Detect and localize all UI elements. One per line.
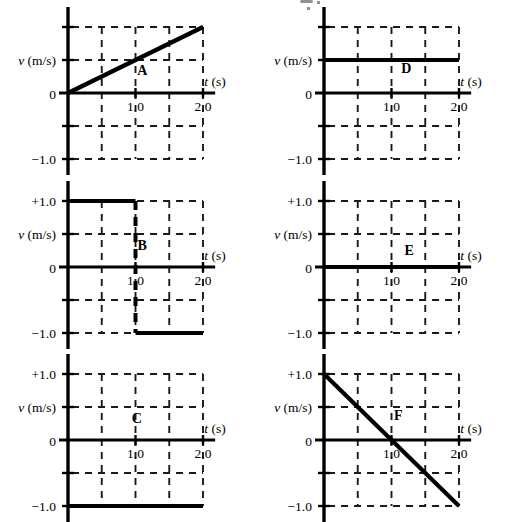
velocity-time-graph-figure: v (m/s)0−1.01.02.0t (s)Av (m/s)0−1.01.02… (0, 0, 513, 522)
y-axis-label: v (m/s) (18, 53, 56, 68)
y-axis-labels: v (m/s)0−1.0 (18, 53, 56, 167)
y-tick-bottom: −1.0 (288, 499, 313, 514)
y-axis-label: v (m/s) (274, 53, 312, 68)
x-tick-label: 2.0 (195, 446, 212, 461)
x-tick-label: 1.0 (127, 446, 144, 461)
x-axis-label: t (s) (204, 248, 225, 263)
y-tick-zero: 0 (49, 87, 56, 102)
y-axis-label: v (m/s) (18, 400, 56, 415)
y-tick-bottom: −1.0 (32, 152, 57, 167)
y-tick-zero: 0 (49, 434, 56, 449)
y-tick-bottom: −1.0 (288, 326, 313, 341)
x-tick-label: 1.0 (383, 273, 400, 288)
x-tick-label: 2.0 (195, 99, 212, 114)
graph-panel-f: +1.0v (m/s)0−1.01.02.0t (s)F (256, 350, 513, 522)
y-axis-label: v (m/s) (18, 227, 56, 242)
panel-letter: D (401, 61, 411, 76)
y-axis-label: v (m/s) (274, 227, 312, 242)
x-axis-label: t (s) (460, 74, 481, 89)
y-tick-zero: 0 (305, 434, 312, 449)
axes (59, 354, 215, 522)
panel-letter: C (132, 411, 142, 426)
graph-panel-b: +1.0v (m/s)0−1.01.02.0t (s)B (0, 175, 256, 350)
y-tick-zero: 0 (305, 261, 312, 276)
panel-letter: E (404, 243, 413, 258)
y-tick-top: +1.0 (288, 367, 313, 382)
y-tick-top: +1.0 (32, 367, 57, 382)
y-tick-zero: 0 (305, 87, 312, 102)
x-axis-label: t (s) (460, 421, 481, 436)
y-axis-labels: +1.0v (m/s)0−1.0 (18, 367, 56, 514)
x-axis-label: t (s) (204, 74, 225, 89)
axes (315, 7, 471, 175)
graph-panel-e: +1.0v (m/s)0−1.01.02.0t (s)E (256, 175, 513, 350)
y-tick-top: +1.0 (32, 194, 57, 209)
graph-panel-a: v (m/s)0−1.01.02.0t (s)A (0, 0, 256, 175)
y-axis-labels: v (m/s)0−1.0 (274, 53, 312, 167)
x-tick-label: 1.0 (383, 99, 400, 114)
panel-letter: F (394, 408, 403, 423)
x-tick-label: 2.0 (195, 273, 212, 288)
graph-panel-d: v (m/s)0−1.01.02.0t (s)D (256, 0, 513, 175)
x-tick-label: 1.0 (127, 99, 144, 114)
y-tick-zero: 0 (49, 261, 56, 276)
x-tick-label: 2.0 (451, 273, 468, 288)
y-tick-bottom: −1.0 (288, 152, 313, 167)
panel-letter: B (138, 238, 147, 253)
y-axis-label: v (m/s) (274, 400, 312, 415)
y-tick-top: +1.0 (288, 194, 313, 209)
x-tick-label: 2.0 (451, 446, 468, 461)
y-tick-bottom: −1.0 (32, 326, 57, 341)
x-axis-label: t (s) (460, 248, 481, 263)
y-axis-labels: +1.0v (m/s)0−1.0 (274, 194, 312, 341)
panel-letter: A (137, 63, 148, 78)
y-axis-labels: +1.0v (m/s)0−1.0 (18, 194, 56, 341)
graph-panel-c: +1.0v (m/s)0−1.01.02.0t (s)C (0, 350, 256, 522)
y-tick-bottom: −1.0 (32, 499, 57, 514)
x-tick-label: 2.0 (451, 99, 468, 114)
x-axis-label: t (s) (204, 421, 225, 436)
y-axis-labels: +1.0v (m/s)0−1.0 (274, 367, 312, 514)
